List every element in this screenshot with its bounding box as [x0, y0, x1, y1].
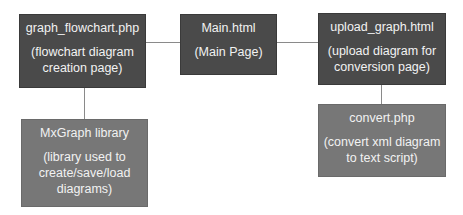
node-description: (Main Page) [194, 44, 262, 60]
node-main-html: Main.html (Main Page) [180, 14, 277, 75]
node-upload-graph: upload_graph.html (upload diagram for co… [318, 13, 446, 85]
node-title: Main.html [201, 20, 255, 36]
edge-main-upload [277, 42, 318, 43]
node-mxgraph-library: MxGraph library (library used to create/… [21, 119, 148, 207]
node-description: (flowchart diagram creation page) [31, 44, 134, 76]
node-convert-php: convert.php (convert xml diagram to text… [318, 104, 446, 177]
node-title: MxGraph library [40, 125, 129, 141]
node-title: upload_graph.html [330, 19, 434, 35]
node-title: convert.php [349, 110, 414, 126]
node-description: (upload diagram for conversion page) [328, 43, 436, 75]
node-graph-flowchart: graph_flowchart.php (flowchart diagram c… [19, 14, 146, 88]
node-description: (library used to create/save/load diagra… [39, 149, 131, 197]
node-description: (convert xml diagram to text script) [324, 134, 441, 166]
edge-flowchart-mxgraph [84, 88, 85, 119]
edge-upload-convert [381, 85, 382, 104]
edge-flowchart-main [146, 42, 180, 43]
node-title: graph_flowchart.php [26, 20, 139, 36]
